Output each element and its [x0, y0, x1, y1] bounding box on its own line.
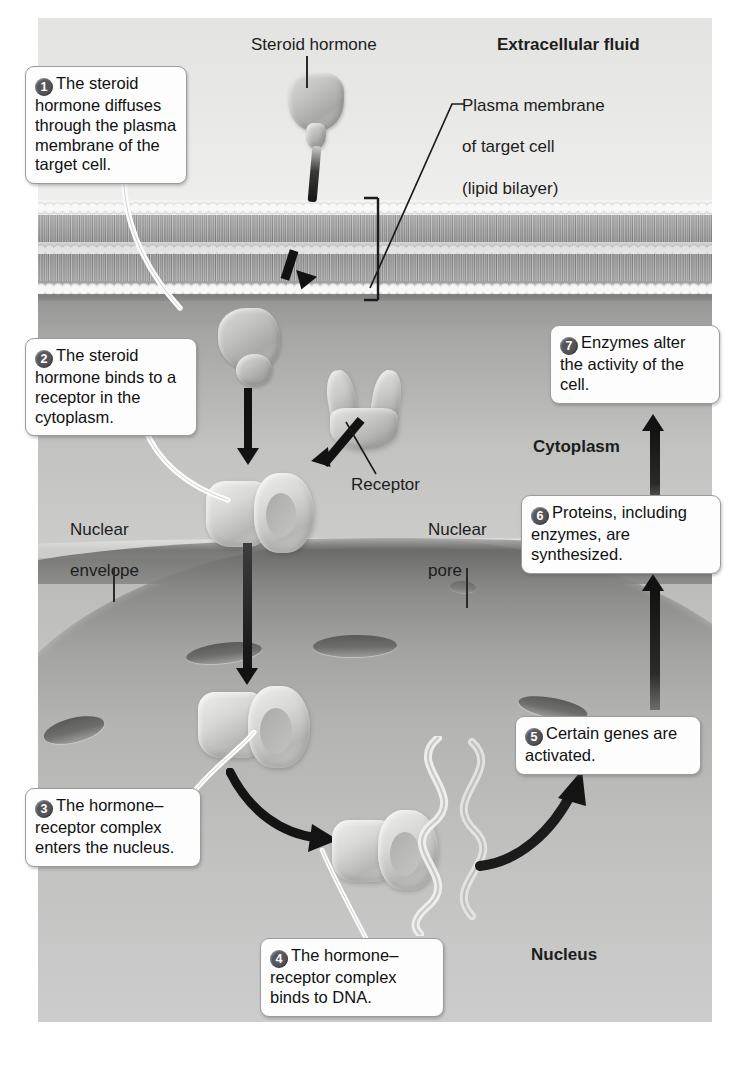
callout-step-1[interactable]: 1The steroid hormone diffuses through th… — [25, 66, 187, 184]
label-plasma-membrane-line3: (lipid bilayer) — [462, 179, 605, 199]
label-nuclear-pore-line1: Nuclear — [428, 520, 487, 540]
diagram-page: Steroid hormone Extracellular fluid Plas… — [0, 0, 742, 1071]
callout-step-7[interactable]: 7Enzymes alter the activity of the cell. — [550, 325, 720, 404]
label-plasma-membrane-line2: of target cell — [462, 137, 605, 157]
leader-receptor-svg — [344, 420, 384, 478]
callout-step-2[interactable]: 2The steroid hormone binds to a receptor… — [25, 338, 197, 436]
leader-nuclear-envelope — [113, 568, 115, 602]
complex-at-pore-cleft — [260, 708, 292, 754]
label-extracellular-fluid: Extracellular fluid — [497, 35, 640, 55]
arrow-complex-into-nucleus-shaft — [243, 543, 252, 673]
leader-plasma-membrane-svg — [360, 100, 466, 292]
label-cytoplasm: Cytoplasm — [533, 437, 620, 457]
step-number-badge: 3 — [35, 800, 53, 818]
callout-tail-step-1 — [118, 168, 198, 318]
callout-tail-step-2 — [142, 424, 252, 514]
arrow-genes-activated-svg — [474, 758, 634, 878]
step-number-badge: 5 — [525, 728, 543, 746]
arrow-enzymes-alter-activity-shaft — [650, 428, 660, 502]
label-plasma-membrane-line1: Plasma membrane — [462, 96, 605, 116]
step-number-badge: 1 — [35, 78, 53, 96]
leader-receptor — [344, 420, 384, 478]
callout-step-3[interactable]: 3The hormone–receptor complex enters the… — [25, 788, 201, 867]
callout-step-4-text: The hormone–receptor complex binds to DN… — [270, 946, 398, 1006]
label-nuclear-envelope: Nuclear envelope — [70, 520, 139, 561]
arrow-complex-into-nucleus-head — [236, 668, 258, 685]
label-nuclear-envelope-line1: Nuclear — [70, 520, 139, 540]
label-nucleus: Nucleus — [531, 945, 597, 965]
callout-tail-step-4-svg — [318, 848, 388, 948]
leader-nuclear-pore — [466, 568, 468, 608]
label-steroid-hormone: Steroid hormone — [251, 35, 377, 55]
label-receptor: Receptor — [351, 475, 420, 495]
leader-steroid-hormone — [306, 56, 308, 88]
callout-step-2-text: The steroid hormone binds to a receptor … — [35, 346, 176, 426]
callout-step-4[interactable]: 4The hormone–receptor complex binds to D… — [260, 938, 444, 1017]
step-number-badge: 6 — [531, 507, 549, 525]
callout-tail-step-4 — [318, 848, 388, 948]
label-nuclear-pore-line2: pore — [428, 561, 487, 581]
step-number-badge: 4 — [270, 950, 288, 968]
label-nuclear-pore: Nuclear pore — [428, 520, 487, 561]
callout-step-7-text: Enzymes alter the activity of the cell. — [560, 333, 686, 393]
callout-tail-step-2-svg — [142, 424, 252, 514]
step-number-badge: 2 — [35, 350, 53, 368]
leader-plasma-membrane — [360, 100, 466, 292]
complex-cleft-shadow — [266, 493, 296, 537]
label-nuclear-envelope-line2: envelope — [70, 561, 139, 581]
callout-step-5[interactable]: 5Certain genes are activated. — [515, 716, 701, 775]
callout-step-1-text: The steroid hormone diffuses through the… — [35, 74, 176, 173]
callout-step-3-text: The hormone–receptor complex enters the … — [35, 796, 174, 856]
step-number-badge: 7 — [560, 337, 578, 355]
arrow-proteins-synthesized-shaft — [650, 588, 660, 710]
callout-tail-step-1-svg — [118, 168, 198, 318]
callout-step-6-text: Proteins, including enzymes, are synthes… — [531, 503, 687, 563]
arrow-enzymes-alter-activity-head — [642, 414, 664, 431]
label-plasma-membrane: Plasma membrane of target cell (lipid bi… — [462, 96, 605, 157]
callout-step-5-text: Certain genes are activated. — [525, 724, 677, 764]
arrow-proteins-synthesized-head — [642, 574, 664, 591]
callout-step-6[interactable]: 6Proteins, including enzymes, are synthe… — [521, 495, 721, 574]
